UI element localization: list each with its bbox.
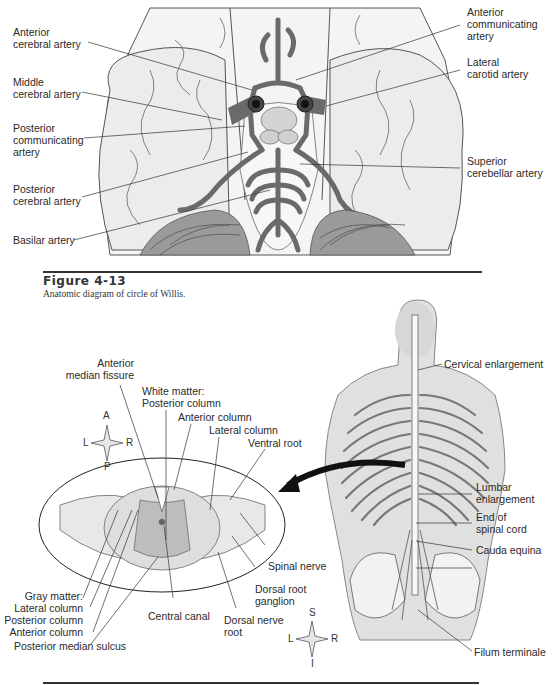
label-posterior-cerebral-artery: Posterior cerebral artery <box>13 183 81 207</box>
compass-body-left: L <box>288 633 294 644</box>
figure-divider-bottom <box>43 682 479 684</box>
compass-posterior: P <box>104 461 111 472</box>
compass-right: R <box>126 437 133 448</box>
figure-caption: Anatomic diagram of circle of Willis. <box>43 289 185 299</box>
compass-anterior: A <box>103 410 110 421</box>
compass-cross-section <box>91 425 123 461</box>
figure-divider-top <box>43 271 482 273</box>
label-posterior-median-sulcus: Posterior median sulcus <box>14 640 126 652</box>
compass-left: L <box>83 437 89 448</box>
compass-body-right: R <box>331 633 338 644</box>
label-middle-cerebral-artery: Middle cerebral artery <box>13 76 81 100</box>
label-basilar-artery: Basilar artery <box>13 234 75 246</box>
label-superior-cerebellar-artery: Superior cerebellar artery <box>467 155 543 179</box>
label-anterior-column: Anterior column <box>178 411 252 423</box>
compass-inferior: I <box>311 658 314 669</box>
label-lateral-column: Lateral column <box>209 424 278 436</box>
label-central-canal: Central canal <box>148 610 210 622</box>
label-cervical-enlargement: Cervical enlargement <box>444 358 543 370</box>
label-lateral-carotid-artery: Lateral carotid artery <box>467 56 528 80</box>
label-cauda-equina: Cauda equina <box>476 544 541 556</box>
figure-number: Figure 4-13 <box>43 274 126 288</box>
label-lumbar-enlargement: Lumbar enlargement <box>476 481 534 505</box>
label-end-of-spinal-cord: End of spinal cord <box>476 511 527 535</box>
label-anterior-cerebral-artery: Anterior cerebral artery <box>13 26 81 50</box>
label-ventral-root: Ventral root <box>248 437 302 449</box>
label-dorsal-nerve-root: Dorsal nerve root <box>224 614 284 638</box>
label-posterior-communicating-artery: Posterior communicating artery <box>13 122 84 158</box>
label-filum-terminale: Filum terminale <box>474 646 546 658</box>
label-dorsal-root-ganglion: Dorsal root ganglion <box>255 583 306 607</box>
label-gray-matter: Gray matter: Lateral column Posterior co… <box>0 590 83 638</box>
label-spinal-nerve: Spinal nerve <box>268 560 326 572</box>
label-anterior-median-fissure: Anterior median fissure <box>60 357 134 381</box>
label-anterior-communicating-artery: Anterior communicating artery <box>467 6 538 42</box>
compass-superior: S <box>309 607 316 618</box>
label-white-matter-posterior-column: White matter: Posterior column <box>142 385 221 409</box>
